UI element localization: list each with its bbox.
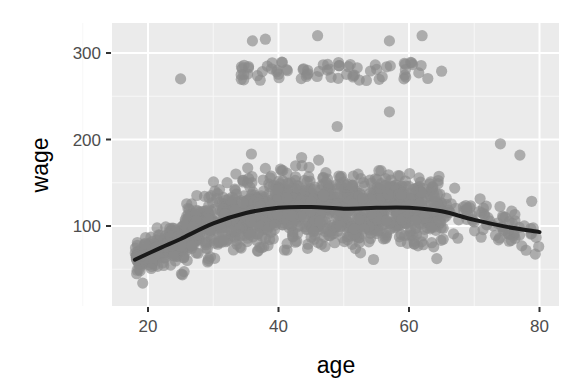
data-point xyxy=(270,220,281,231)
data-point xyxy=(273,72,284,83)
data-point xyxy=(335,221,346,232)
data-point xyxy=(370,59,381,70)
data-point xyxy=(236,69,247,80)
data-point xyxy=(460,200,471,211)
data-point xyxy=(267,57,278,68)
y-axis: 100200300 xyxy=(73,44,111,236)
data-point xyxy=(264,234,275,245)
data-point xyxy=(377,71,388,82)
y-tick-label: 200 xyxy=(73,131,101,150)
data-point xyxy=(316,239,327,250)
data-point xyxy=(272,184,283,195)
data-point xyxy=(208,176,219,187)
data-point xyxy=(313,155,324,166)
data-point xyxy=(243,173,254,184)
data-point xyxy=(287,210,298,221)
y-tick-label: 300 xyxy=(73,44,101,63)
data-point xyxy=(238,197,249,208)
data-point xyxy=(441,193,452,204)
x-axis-title: age xyxy=(317,352,355,378)
data-point xyxy=(230,168,241,179)
data-point xyxy=(209,253,220,264)
data-point xyxy=(436,66,447,77)
data-point xyxy=(186,240,197,251)
data-point xyxy=(181,198,192,209)
data-point xyxy=(368,254,379,265)
data-point xyxy=(260,34,271,45)
data-point xyxy=(318,59,329,70)
data-point xyxy=(359,223,370,234)
data-point xyxy=(157,257,168,268)
data-point xyxy=(203,200,214,211)
x-tick-label: 60 xyxy=(400,317,419,336)
data-point xyxy=(350,243,361,254)
data-point xyxy=(302,243,313,254)
y-tick-label: 100 xyxy=(73,217,101,236)
data-point xyxy=(168,250,179,261)
data-point xyxy=(429,191,440,202)
data-point xyxy=(312,30,323,41)
data-point xyxy=(336,171,347,182)
data-point xyxy=(332,183,343,194)
data-point xyxy=(381,215,392,226)
data-point xyxy=(416,60,427,71)
data-point xyxy=(400,175,411,186)
data-point xyxy=(363,236,374,247)
data-point xyxy=(383,189,394,200)
x-tick-label: 80 xyxy=(530,317,549,336)
x-tick-label: 40 xyxy=(269,317,288,336)
data-point xyxy=(361,75,372,86)
data-point xyxy=(426,222,437,233)
data-point xyxy=(438,234,449,245)
data-point xyxy=(245,229,256,240)
data-point xyxy=(137,278,148,289)
data-point xyxy=(375,165,386,176)
data-point xyxy=(384,106,395,117)
data-point xyxy=(231,189,242,200)
data-point xyxy=(514,150,525,161)
data-point xyxy=(322,173,333,184)
data-point xyxy=(247,35,258,46)
data-point xyxy=(341,69,352,80)
data-point xyxy=(396,189,407,200)
data-point xyxy=(504,236,515,247)
data-point xyxy=(290,160,301,171)
data-point xyxy=(308,226,319,237)
data-point xyxy=(160,221,171,232)
data-point xyxy=(494,201,505,212)
data-point xyxy=(314,216,325,227)
data-point xyxy=(222,177,233,188)
data-point xyxy=(422,73,433,84)
data-point xyxy=(398,73,409,84)
data-point xyxy=(252,70,263,81)
data-point xyxy=(381,61,392,72)
data-point xyxy=(276,57,287,68)
data-point xyxy=(410,215,421,226)
data-point xyxy=(266,171,277,182)
data-point xyxy=(337,232,348,243)
data-point xyxy=(349,223,360,234)
data-point xyxy=(290,171,301,182)
data-point xyxy=(318,189,329,200)
data-point xyxy=(177,269,188,280)
data-point xyxy=(302,68,313,79)
data-point xyxy=(332,121,343,132)
scatter-chart: 100200300 20406080 age wage xyxy=(0,0,586,391)
data-point xyxy=(277,165,288,176)
data-point xyxy=(431,253,442,264)
data-point xyxy=(234,242,245,253)
data-point xyxy=(530,249,541,260)
data-point xyxy=(357,193,368,204)
data-point xyxy=(281,192,292,203)
data-point xyxy=(364,175,375,186)
y-axis-title: wage xyxy=(27,138,53,194)
data-point xyxy=(526,196,537,207)
x-tick-label: 20 xyxy=(139,317,158,336)
data-point xyxy=(346,180,357,191)
data-point xyxy=(218,234,229,245)
data-point xyxy=(290,237,301,248)
data-point xyxy=(384,35,395,46)
data-point xyxy=(326,72,337,83)
data-point xyxy=(495,138,506,149)
data-point xyxy=(417,30,428,41)
